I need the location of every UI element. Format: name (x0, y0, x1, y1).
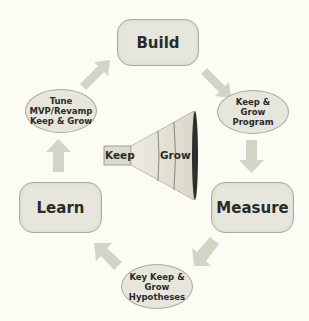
funnel-keep-label: Keep (105, 149, 135, 161)
stage-build-label: Build (136, 34, 179, 52)
stage-measure: Measure (211, 182, 294, 233)
arrow-program-to-measure (239, 140, 264, 173)
funnel-grow-label: Grow (160, 149, 191, 161)
arrow-build-to-program (201, 68, 231, 98)
stage-learn: Learn (19, 182, 102, 233)
arrow-hypotheses-to-learn (94, 243, 122, 270)
stage-key-hypotheses: Key Keep & Grow Hypotheses (121, 264, 193, 309)
stage-key-hypotheses-label: Key Keep & Grow Hypotheses (129, 272, 185, 302)
stage-keep-grow-program: Keep & Grow Program (217, 90, 289, 134)
arrow-learn-to-tune (46, 139, 71, 172)
stage-tune-label: Tune MVP/Revamp Keep & Grow (30, 96, 93, 126)
stage-build: Build (117, 19, 199, 66)
stage-tune: Tune MVP/Revamp Keep & Grow (25, 89, 97, 133)
arrow-tune-to-build (80, 60, 110, 90)
stage-learn-label: Learn (37, 199, 85, 217)
arrow-measure-to-hypotheses (192, 237, 219, 266)
stage-keep-grow-program-label: Keep & Grow Program (232, 97, 273, 127)
keep-grow-cycle-diagram: Keep Grow Build Keep & Grow Program Meas… (0, 0, 309, 321)
stage-measure-label: Measure (216, 199, 288, 217)
